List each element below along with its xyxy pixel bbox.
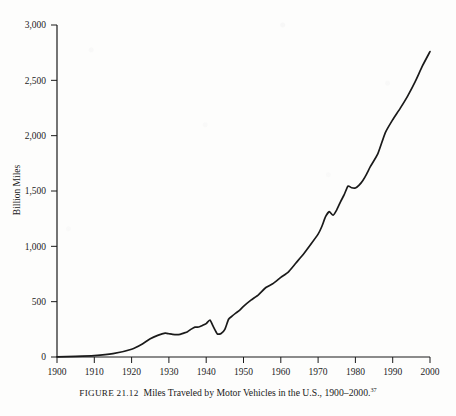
- x-tick-label: 1900: [48, 367, 67, 377]
- y-tick-label: 0: [41, 352, 46, 362]
- figure-caption: FIGURE 21.12Miles Traveled by Motor Vehi…: [0, 386, 456, 398]
- x-tick-label: 1930: [159, 367, 178, 377]
- y-tick-label: 2,500: [25, 76, 47, 86]
- x-axis: 1900191019201930194019501960197019801990…: [48, 357, 440, 377]
- y-tick-label: 2,000: [25, 131, 47, 141]
- y-tick-label: 3,000: [25, 20, 47, 30]
- y-tick-label: 1,000: [25, 242, 47, 252]
- x-tick-label: 1920: [122, 367, 141, 377]
- x-tick-label: 1970: [309, 367, 328, 377]
- x-tick-label: 1950: [234, 367, 253, 377]
- y-axis: 05001,0001,5002,0002,5003,000: [25, 20, 57, 362]
- y-tick-group: 05001,0001,5002,0002,5003,000: [25, 20, 57, 362]
- y-tick-label: 500: [32, 297, 47, 307]
- x-tick-group: 1900191019201930194019501960197019801990…: [48, 357, 440, 377]
- x-tick-label: 1990: [383, 367, 402, 377]
- figure-caption-text: Miles Traveled by Motor Vehicles in the …: [144, 387, 371, 398]
- y-axis-title: Billion Miles: [12, 164, 22, 215]
- x-tick-label: 1960: [271, 367, 290, 377]
- x-tick-label: 1980: [346, 367, 365, 377]
- line-chart: Billion Miles 05001,0001,5002,0002,5003,…: [0, 0, 456, 386]
- data-series-line: [57, 52, 430, 357]
- figure-label: FIGURE 21.12: [79, 388, 138, 398]
- figure-container: Billion Miles 05001,0001,5002,0002,5003,…: [0, 0, 456, 416]
- x-tick-label: 1940: [197, 367, 216, 377]
- x-tick-label: 2000: [421, 367, 440, 377]
- y-tick-label: 1,500: [25, 186, 47, 196]
- figure-footnote-marker: 37: [370, 386, 376, 393]
- x-tick-label: 1910: [85, 367, 104, 377]
